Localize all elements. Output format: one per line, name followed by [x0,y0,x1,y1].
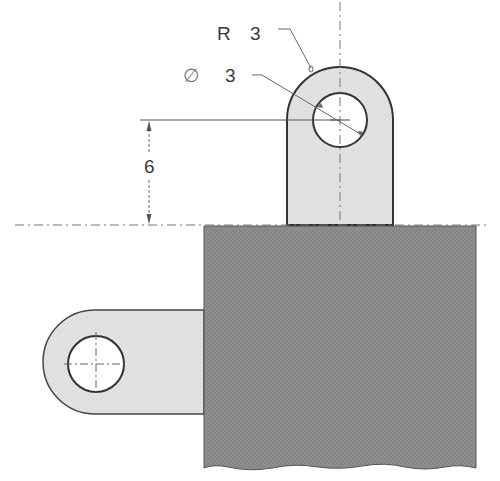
diameter-symbol: ∅ [183,65,200,86]
height-dim-label: 6 [144,156,155,177]
main-block [204,226,476,470]
arrow-down-icon [147,214,152,224]
radius-prefix: R [217,23,231,44]
arrow-up-icon [147,121,152,131]
side-lug [43,310,204,414]
upper-lug [287,67,393,225]
technical-drawing: 6 R 3 ∅ 3 [0,0,500,481]
diameter-value: 3 [225,65,236,86]
radius-value: 3 [250,23,261,44]
